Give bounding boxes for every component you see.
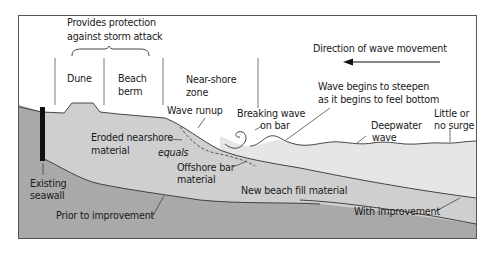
little-surge-label-2: no surge [434,120,475,131]
prior-improvement-label: Prior to improvement [56,210,155,221]
wave-runup-label: Wave runup [167,105,223,116]
deepwater-label-2: wave [372,132,397,143]
zone-label-dune: Dune [67,73,92,84]
breaking-wave-label-2: on bar [260,120,290,131]
seawall-label-1: Existing [30,178,67,189]
with-improvement-label: With improvement [354,206,440,217]
equals-label: equals [158,147,189,158]
direction-label: Direction of wave movement [313,43,447,54]
deepwater-label-1: Deepwater [371,120,422,131]
new-fill-label: New beach fill material [241,185,347,196]
beach-nourishment-diagram: Provides protection against storm attack… [0,0,496,254]
seawall-label-2: seawall [30,190,64,201]
little-surge-label-1: Little or [434,108,469,119]
bracket-title-line2: against storm attack [67,31,163,42]
steepen-label-1: Wave begins to steepen [318,81,429,92]
zone-label-zone: zone [186,87,208,98]
left-base-region [19,105,42,160]
offshore-label-2: material [177,174,215,185]
zone-label-nearshore: Near-shore [186,74,237,85]
offshore-label-1: Offshore bar [177,162,235,173]
steepen-label-2: as it begins to feel bottom [318,94,439,105]
eroded-label-2: material [91,145,129,156]
eroded-label-1: Eroded nearshore [91,132,173,143]
bracket-title-line1: Provides protection [67,17,156,28]
breaking-wave-label-1: Breaking wave [237,108,306,119]
zone-label-berm: berm [118,86,142,97]
seawall [40,107,45,161]
zone-label-beach: Beach [118,73,147,84]
